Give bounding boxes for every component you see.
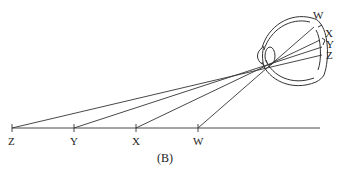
- ray-y: [74, 47, 322, 128]
- ray-z: [12, 55, 322, 128]
- object-label-w: W: [193, 135, 204, 147]
- object-label-z: Z: [8, 135, 15, 147]
- object-label-y: Y: [70, 135, 78, 147]
- object-label-x: X: [132, 135, 140, 147]
- figure-caption: (B): [157, 151, 173, 165]
- eye-projection-diagram: Z Y X W W X Y Z (B): [0, 0, 343, 170]
- retina-label-z: Z: [326, 49, 333, 61]
- retina-label-w: W: [313, 9, 324, 21]
- eyeball: [258, 17, 328, 86]
- ray-w: [198, 27, 314, 128]
- ray-x: [136, 40, 320, 128]
